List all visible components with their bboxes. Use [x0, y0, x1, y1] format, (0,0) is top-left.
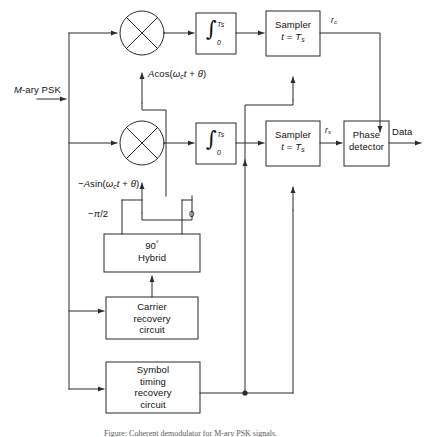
data-output-label: Data: [392, 126, 412, 137]
integrator-inphase-upper-limit: Ts: [217, 21, 224, 28]
carrier-quadrature-label: −Asin(ωct + θ): [78, 178, 139, 190]
carrier-recovery-line3: circuit: [139, 324, 165, 335]
symbol-timing-line1: Symbol: [137, 364, 169, 375]
diagram-wiring: [0, 0, 427, 437]
symbol-timing-line3: recovery: [134, 387, 171, 398]
symbol-timing-recovery-label: Symbol timing recovery circuit: [106, 364, 200, 410]
phase-detector-line1: Phase: [353, 129, 380, 140]
phase-detector-label: Phase detector: [344, 129, 389, 152]
block-diagram-figure: M-ary PSK Acos(ωct + θ) −Asin(ωct + θ) T…: [0, 0, 427, 437]
integrator-quadrature-upper-limit: Ts: [217, 131, 224, 138]
node-label-rs: rs: [325, 126, 331, 136]
sampler-inphase-label: Sampler t = Ts: [266, 19, 320, 43]
sampler-inphase-line1: Sampler: [275, 19, 311, 30]
phase-shift-minus-pi-2-label: −π/2: [88, 208, 108, 219]
integral-sign-icon: ∫: [206, 17, 217, 41]
hybrid-label: 90° Hybrid: [104, 240, 200, 263]
wire-carrier-inphase-route: [142, 103, 166, 196]
integrator-quadrature-symbol: Ts ∫0: [206, 129, 228, 161]
input-signal-label: M-ary PSK: [14, 84, 61, 95]
phase-detector-line2: detector: [349, 141, 384, 152]
carrier-recovery-label: Carrier recovery circuit: [106, 301, 198, 336]
integrator-inphase-lower-limit: 0: [217, 39, 221, 46]
hybrid-line1: 90°: [145, 240, 159, 251]
phase-shift-zero-label: 0: [189, 208, 194, 219]
figure-caption: Figure: Coherent demodulator for M-ary P…: [104, 429, 277, 437]
sampler-quadrature-line1: Sampler: [275, 129, 311, 140]
symbol-timing-line4: circuit: [140, 399, 166, 410]
sampler-quadrature-line2: t = Ts: [281, 141, 304, 152]
symbol-timing-line2: timing: [140, 376, 166, 387]
carrier-inphase-label: Acos(ωct + θ): [148, 68, 206, 80]
integral-sign-icon: ∫: [206, 127, 217, 151]
integrator-inphase-symbol: Ts ∫0: [206, 19, 228, 51]
junction-dot-symbol-clock: [242, 390, 247, 395]
sampler-quadrature-label: Sampler t = Ts: [266, 129, 320, 153]
sampler-inphase-line2: t = Ts: [281, 31, 304, 42]
hybrid-line2: Hybrid: [138, 252, 166, 263]
carrier-recovery-line1: Carrier: [137, 301, 167, 312]
carrier-recovery-line2: recovery: [133, 313, 170, 324]
integrator-quadrature-lower-limit: 0: [217, 149, 221, 156]
node-label-rc: rc: [331, 16, 337, 26]
wire-sampler-inphase-to-phase-detector: [320, 33, 380, 132]
